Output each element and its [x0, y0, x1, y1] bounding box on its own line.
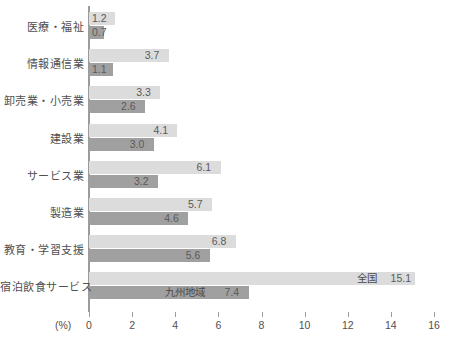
category-label: 宿泊飲食サービス — [0, 278, 84, 294]
bar-group: 6.13.2 — [89, 161, 434, 191]
series-legend-tag: 全国 — [357, 272, 377, 285]
category-label: 医療・福祉 — [0, 18, 84, 34]
category-label: 教育・学習支援 — [0, 241, 84, 257]
bar-value-label: 4.6 — [164, 212, 179, 225]
x-axis-tick-label: 2 — [129, 319, 135, 331]
x-axis-tick-label: 4 — [172, 319, 178, 331]
category-label: 製造業 — [0, 204, 84, 220]
x-axis-tick-label: 10 — [299, 319, 311, 331]
bar-value-label: 0.7 — [92, 26, 107, 39]
bar-chart: 1.20.73.71.13.32.64.13.06.13.25.74.66.85… — [0, 0, 450, 342]
bar-group: 4.13.0 — [89, 124, 434, 154]
bar-value-label: 5.7 — [188, 198, 203, 211]
x-axis-tick — [305, 312, 306, 317]
bar-group: 3.32.6 — [89, 86, 434, 116]
x-axis-tick-label: 6 — [215, 319, 221, 331]
category-label: 卸売業・小売業 — [0, 92, 84, 108]
x-axis-tick-label: 8 — [259, 319, 265, 331]
x-axis-tick — [391, 312, 392, 317]
x-axis-tick-label: 14 — [385, 319, 397, 331]
x-axis-tick — [175, 312, 176, 317]
bar-group: 3.71.1 — [89, 49, 434, 79]
bar-value-label: 3.0 — [130, 138, 145, 151]
bar-value-label: 2.6 — [121, 100, 136, 113]
bar-value-label: 6.8 — [212, 235, 227, 248]
bar-group: 1.20.7 — [89, 12, 434, 42]
bar-value-label: 3.2 — [134, 175, 149, 188]
category-label: 情報通信業 — [0, 55, 84, 71]
bar-group: 5.74.6 — [89, 198, 434, 228]
x-axis-tick — [132, 312, 133, 317]
bar-group: 15.1全国7.4九州地域 — [89, 272, 434, 302]
x-axis-tick — [348, 312, 349, 317]
bar-value-label: 4.1 — [153, 124, 168, 137]
x-axis-tick — [218, 312, 219, 317]
series-legend-tag: 九州地域 — [165, 286, 205, 299]
x-axis-tick — [434, 312, 435, 317]
bar-value-label: 5.6 — [186, 249, 201, 262]
bar-value-label: 3.3 — [136, 86, 151, 99]
x-axis-tick-label: 12 — [342, 319, 354, 331]
x-axis-tick — [89, 312, 90, 317]
x-axis-tick-label: 0 — [86, 319, 92, 331]
category-label: 建設業 — [0, 130, 84, 146]
x-axis-tick-label: 16 — [428, 319, 440, 331]
bar-value-label: 1.2 — [92, 12, 107, 25]
category-label: サービス業 — [0, 167, 84, 183]
bar-group: 6.85.6 — [89, 235, 434, 265]
bar-value-label: 6.1 — [197, 161, 212, 174]
x-axis-tick — [262, 312, 263, 317]
bar-value-label: 15.1 — [391, 272, 411, 285]
bar-value-label: 1.1 — [92, 63, 107, 76]
bar-value-label: 3.7 — [145, 49, 160, 62]
bar-value-label: 7.4 — [225, 286, 240, 299]
x-axis: 0246810121416 — [89, 312, 434, 342]
x-axis-unit-label: (%) — [55, 319, 71, 331]
bar-region — [89, 100, 145, 113]
plot-area: 1.20.73.71.13.32.64.13.06.13.25.74.66.85… — [89, 6, 434, 312]
